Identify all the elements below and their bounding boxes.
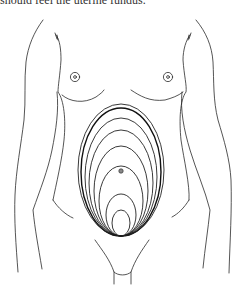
right-nipple-outer <box>163 72 172 81</box>
left-hip-crease <box>53 200 73 218</box>
left-groin-line <box>95 240 114 284</box>
left-arm-outer <box>15 20 43 272</box>
right-armpit <box>188 33 191 40</box>
pubic-curve <box>114 272 131 275</box>
fundal-ellipse-2 <box>106 194 136 236</box>
right-torso-side <box>180 35 190 200</box>
fundal-ellipse-4 <box>94 146 148 236</box>
left-nipple-inner <box>74 76 77 79</box>
right-arm-inner <box>181 92 210 268</box>
right-nipple-inner <box>167 76 170 79</box>
left-breast-underline <box>62 90 104 101</box>
right-arm-outer <box>196 20 231 273</box>
breasts <box>62 72 183 101</box>
left-torso-side <box>53 35 65 200</box>
fundal-ellipse-6 <box>85 118 157 236</box>
right-breast-underline <box>131 90 183 100</box>
right-hip-crease <box>172 200 189 217</box>
left-armpit <box>55 33 58 40</box>
left-arm-inner <box>33 92 58 269</box>
groin-lines <box>53 200 189 284</box>
fundal-ellipse-3 <box>99 166 143 236</box>
umbilicus-icon <box>119 169 123 173</box>
fundal-ellipse-1 <box>112 210 130 236</box>
fundal-ellipses <box>78 104 164 236</box>
left-nipple-outer <box>70 72 79 81</box>
right-groin-line <box>131 240 149 284</box>
pregnancy-fundal-height-diagram <box>0 0 249 290</box>
